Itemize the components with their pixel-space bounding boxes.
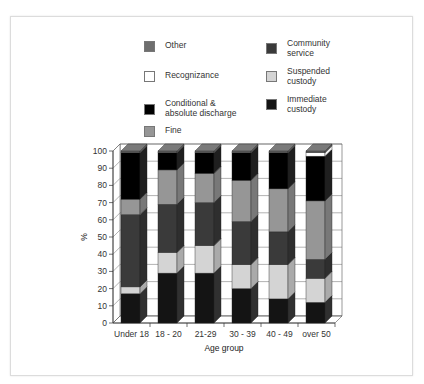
bar-segment <box>195 246 214 274</box>
bar-segment <box>269 189 288 232</box>
bar-segment-side <box>177 197 184 252</box>
x-tick-label: over 50 <box>302 329 331 339</box>
y-tick-label: 80 <box>98 180 108 190</box>
bar-segment <box>121 199 140 214</box>
bar-segment <box>121 294 140 323</box>
bar-segment <box>158 252 177 273</box>
bar-segment <box>195 203 214 246</box>
bar-segment-side <box>251 215 258 265</box>
y-tick-label: 40 <box>98 249 108 259</box>
y-tick-label: 70 <box>98 198 108 208</box>
bar-segment-side <box>214 266 221 323</box>
bar-segment <box>158 153 177 170</box>
bar-segment <box>232 151 251 153</box>
y-tick-label: 50 <box>98 232 108 242</box>
bar-segment <box>306 153 325 156</box>
bar-segment-side <box>251 173 258 221</box>
bar-segment <box>306 156 325 201</box>
y-tick-label: 30 <box>98 266 108 276</box>
y-axis-title: % <box>79 233 89 241</box>
y-tick-label: 100 <box>93 146 107 156</box>
bar-segment <box>121 215 140 287</box>
bar-segment <box>306 151 325 153</box>
bar-segment <box>195 153 214 174</box>
bar-segment <box>158 170 177 204</box>
bar-segment <box>121 287 140 294</box>
bar-segment <box>306 302 325 323</box>
bar-segment <box>158 151 177 153</box>
bar-segment <box>306 278 325 302</box>
bar-segment-side <box>140 146 147 199</box>
x-tick-label: 30 - 39 <box>229 329 256 339</box>
y-tick-label: 0 <box>102 318 107 328</box>
bar-segment <box>121 153 140 199</box>
y-tick-label: 90 <box>98 163 108 173</box>
bar-segment <box>269 151 288 153</box>
x-tick-label: 21-29 <box>195 329 217 339</box>
bar-segment <box>232 289 251 323</box>
bar-segment-side <box>177 266 184 323</box>
bar-segment <box>232 153 251 181</box>
bar-segment-side <box>288 182 295 232</box>
bar-segment <box>269 299 288 323</box>
bar-segment <box>269 153 288 189</box>
bar-segment-side <box>288 146 295 189</box>
bar-segment-side <box>214 196 221 246</box>
x-axis-title: Age group <box>204 343 243 353</box>
stacked-bar-chart: 0102030405060708090100Under 1818 - 2021-… <box>0 0 424 384</box>
x-tick-label: 40 - 49 <box>266 329 293 339</box>
bar-segment <box>306 259 325 278</box>
x-tick-label: Under 18 <box>114 329 149 339</box>
bar-segment-side <box>325 194 332 259</box>
x-tick-label: 18 - 20 <box>155 329 182 339</box>
bar-segment <box>269 232 288 265</box>
bar-segment <box>158 273 177 323</box>
bar-segment-side <box>140 208 147 287</box>
bar-segment <box>195 151 214 153</box>
y-tick-label: 60 <box>98 215 108 225</box>
bar-segment-side <box>325 149 332 201</box>
y-tick-label: 10 <box>98 301 108 311</box>
bar-segment <box>232 265 251 289</box>
bar-segment <box>195 173 214 202</box>
bar-segment <box>195 273 214 323</box>
bar-segment <box>269 265 288 299</box>
y-tick-label: 20 <box>98 284 108 294</box>
bar-segment <box>306 201 325 259</box>
bar-segment <box>158 204 177 252</box>
bar-segment <box>232 222 251 265</box>
bar-segment <box>232 180 251 221</box>
bar-segment <box>121 151 140 153</box>
